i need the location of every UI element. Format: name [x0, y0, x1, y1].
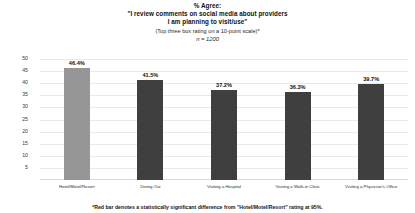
x-axis-category-label: Hotel/Motel/Resort: [40, 184, 114, 189]
x-axis-category-label: Visiting a Physician's Office: [334, 184, 408, 189]
x-axis-category-label: Dining Out: [114, 184, 188, 189]
bar[interactable]: [285, 92, 311, 180]
bar-slot: 46.4%: [40, 59, 114, 180]
chart-title-line-2: "I review comments on social media about…: [0, 10, 415, 18]
chart-title-line-3: I am planning to visit/use": [0, 18, 415, 26]
chart-subtitle: (Top three box rating on a 10-point scal…: [0, 27, 415, 35]
y-axis-tick-label: 50: [22, 56, 28, 61]
y-axis-tick-label: 5: [25, 165, 28, 170]
y-axis-tick-label: 35: [22, 93, 28, 98]
chart-title-block: % Agree: "I review comments on social me…: [0, 2, 415, 43]
y-axis-tick-label: 25: [22, 117, 28, 122]
y-axis-tick-label: 20: [22, 129, 28, 134]
y-axis: 5045403530252015105: [0, 59, 36, 180]
bar-value-label: 46.4%: [69, 60, 85, 66]
bar[interactable]: [137, 80, 163, 180]
bar-slot: 36.3%: [261, 59, 335, 180]
bar-value-label: 39.7%: [363, 76, 379, 82]
bar-value-label: 36.3%: [290, 84, 306, 90]
y-axis-tick-label: 15: [22, 141, 28, 146]
x-axis-category-label: Visiting a Hospital: [187, 184, 261, 189]
bar-value-label: 37.2%: [216, 82, 232, 88]
bar[interactable]: [211, 90, 237, 180]
x-axis: Hotel/Motel/ResortDining OutVisiting a H…: [40, 184, 408, 196]
x-axis-category-label: Visiting a Walk-in Clinic: [261, 184, 335, 189]
y-axis-tick-label: 30: [22, 105, 28, 110]
chart-title-line-1: % Agree:: [0, 2, 415, 10]
bar-value-label: 41.5%: [142, 72, 158, 78]
bar-slot: 41.5%: [114, 59, 188, 180]
bar-chart: % Agree: "I review comments on social me…: [0, 0, 415, 213]
bar-slot: 39.7%: [334, 59, 408, 180]
chart-sample-size: n = 1200: [0, 35, 415, 43]
y-axis-tick-label: 45: [22, 68, 28, 73]
bar[interactable]: [64, 68, 90, 180]
plot-area: 46.4%41.5%37.2%36.3%39.7%: [40, 59, 408, 180]
bar-slot: 37.2%: [187, 59, 261, 180]
y-axis-tick-label: 10: [22, 153, 28, 158]
bar[interactable]: [358, 84, 384, 180]
chart-footnote: *Red bar denotes a statistically signifi…: [0, 204, 415, 210]
y-axis-tick-label: 40: [22, 81, 28, 86]
